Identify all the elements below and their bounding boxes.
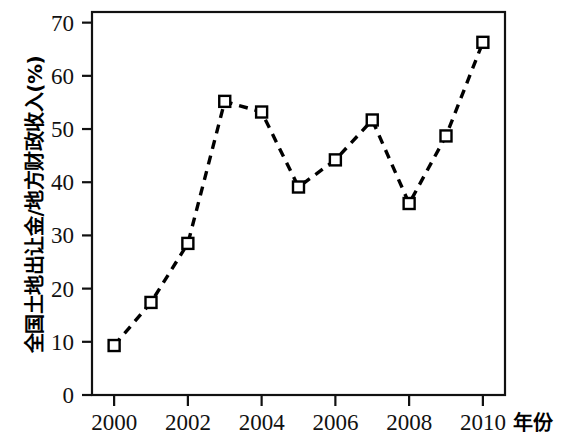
x-tick-label: 2000	[91, 410, 137, 435]
data-point-marker	[219, 96, 230, 107]
y-axis-ticks	[82, 23, 92, 395]
data-point-marker	[146, 297, 157, 308]
series-markers	[109, 37, 489, 351]
series-line-land-transfer-ratio	[114, 42, 483, 345]
y-tick-label: 40	[51, 170, 74, 195]
x-tick-label: 2002	[165, 410, 211, 435]
y-tick-label: 50	[51, 117, 74, 142]
y-tick-label: 70	[51, 11, 74, 36]
plot-frame	[92, 12, 505, 395]
y-tick-label: 0	[63, 383, 75, 408]
y-axis-title: 全国土地出让金/地方财政收入(%)	[19, 15, 48, 395]
y-tick-label: 10	[51, 330, 74, 355]
x-tick-label: 2010	[460, 410, 506, 435]
data-point-marker	[404, 198, 415, 209]
x-tick-label: 2004	[239, 410, 286, 435]
data-point-marker	[367, 114, 378, 125]
x-axis-tick-labels: 200020022004200620082010	[91, 410, 506, 435]
y-tick-label: 20	[51, 277, 74, 302]
line-chart: 010203040506070 200020022004200620082010	[0, 0, 569, 442]
y-tick-label: 30	[51, 223, 74, 248]
chart-figure: 010203040506070 200020022004200620082010…	[0, 0, 569, 442]
x-axis-title: 年份	[513, 407, 553, 436]
data-point-marker	[330, 154, 341, 165]
data-point-marker	[441, 130, 452, 141]
y-tick-label: 60	[51, 64, 74, 89]
data-point-marker	[293, 182, 304, 193]
data-point-marker	[477, 37, 488, 48]
y-axis-tick-labels: 010203040506070	[51, 11, 74, 408]
data-point-marker	[182, 238, 193, 249]
data-point-marker	[109, 340, 120, 351]
data-series-group	[109, 37, 489, 351]
x-axis-ticks	[114, 395, 483, 406]
x-tick-label: 2006	[312, 410, 358, 435]
x-tick-label: 2008	[386, 410, 432, 435]
data-point-marker	[256, 107, 267, 118]
